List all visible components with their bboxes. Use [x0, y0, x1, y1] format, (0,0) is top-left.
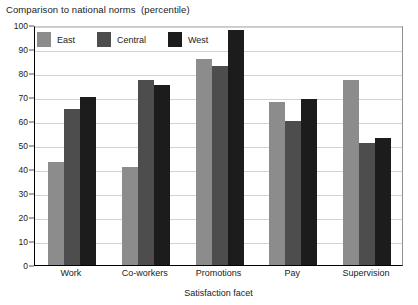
x-axis-title: Satisfaction facet [34, 288, 403, 298]
bar-west-promotions [228, 30, 244, 265]
bar-east-co-workers [122, 167, 138, 265]
y-axis-tick-label: 30 [19, 189, 28, 199]
legend-item-east: East [37, 32, 75, 47]
bar-east-promotions [196, 59, 212, 265]
x-axis-tick-label: Work [60, 268, 81, 278]
y-axis-tick-label: 40 [19, 165, 28, 175]
legend-item-central: Central [97, 32, 146, 47]
y-axis-tick-label: 60 [19, 117, 28, 127]
legend-label: West [188, 35, 208, 45]
legend-label: Central [117, 35, 146, 45]
y-axis-tick-label: 100 [14, 21, 28, 31]
x-axis-tick-labels: WorkCo-workersPromotionsPaySupervision [34, 268, 403, 284]
legend-swatch-central [97, 32, 111, 47]
bar-east-work [48, 162, 64, 265]
x-axis-tick-label: Co-workers [122, 268, 168, 278]
y-axis-tick-label: 20 [19, 213, 28, 223]
legend-item-west: West [168, 32, 208, 47]
chart-legend: EastCentralWest [37, 32, 230, 47]
bar-west-supervision [375, 138, 391, 265]
plot-area [34, 26, 403, 266]
bars-layer [35, 27, 402, 265]
bar-east-pay [269, 102, 285, 265]
bar-east-supervision [343, 80, 359, 265]
bar-central-supervision [359, 143, 375, 265]
x-axis-tick-label: Pay [285, 268, 301, 278]
bar-central-promotions [212, 66, 228, 265]
legend-swatch-west [168, 32, 182, 47]
bar-chart: Comparison to national norms (percentile… [0, 0, 418, 305]
y-axis-tick-label: 80 [19, 69, 28, 79]
y-axis-tick-label: 50 [19, 141, 28, 151]
bar-west-pay [301, 99, 317, 265]
bar-west-co-workers [154, 85, 170, 265]
y-axis-tick-label: 10 [19, 237, 28, 247]
bar-central-pay [285, 121, 301, 265]
x-axis-tick-label: Promotions [196, 268, 242, 278]
y-axis: 1009080706050403020100 [0, 26, 34, 266]
y-axis-tick-label: 90 [19, 45, 28, 55]
chart-title: Comparison to national norms (percentile… [6, 4, 190, 15]
legend-label: East [57, 35, 75, 45]
x-axis-tick-label: Supervision [343, 268, 390, 278]
y-axis-tick-label: 0 [23, 261, 28, 271]
bar-central-work [64, 109, 80, 265]
bar-west-work [80, 97, 96, 265]
y-axis-tick-label: 70 [19, 93, 28, 103]
legend-swatch-east [37, 32, 51, 47]
bar-central-co-workers [138, 80, 154, 265]
